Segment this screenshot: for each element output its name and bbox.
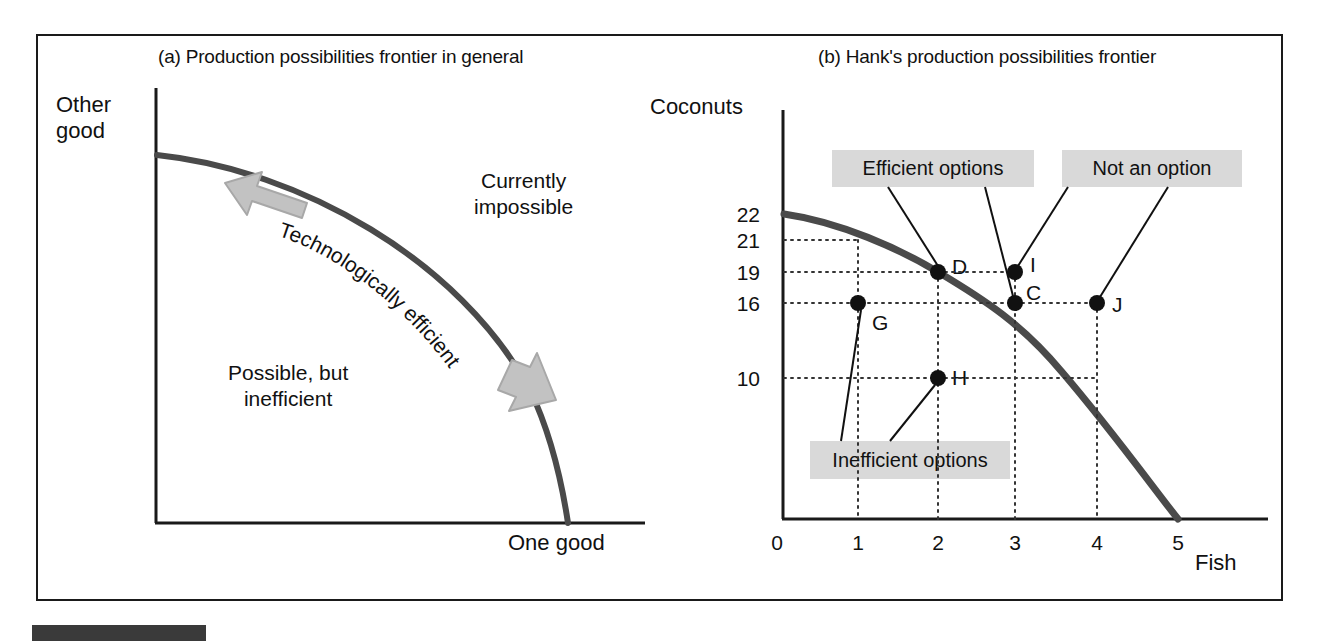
panel-a-y-axis-label-line2: good: [56, 118, 111, 144]
y-tick-label-19: 19: [722, 261, 760, 285]
point-label-H: H: [952, 366, 967, 390]
impossible-line2: impossible: [474, 194, 573, 220]
y-tick-label-10: 10: [722, 367, 760, 391]
panel-b-y-axis-label: Coconuts: [650, 94, 743, 120]
impossible-line1: Currently: [474, 168, 573, 194]
panel-a-x-axis-label: One good: [508, 530, 605, 556]
x-tick-label-4: 4: [1085, 531, 1109, 555]
panel-a-impossible-region-label: Currently impossible: [474, 168, 573, 220]
panel-a-y-axis-label: Other good: [56, 92, 111, 144]
callout-inefficient-options: Inefficient options: [810, 441, 1010, 479]
x-tick-label-1: 1: [846, 531, 870, 555]
panel-a-inefficient-region-label: Possible, but inefficient: [228, 360, 348, 412]
panel-a-title: (a) Production possibilities frontier in…: [158, 46, 523, 68]
point-label-J: J: [1112, 293, 1123, 317]
panel-b-title: (b) Hank's production possibilities fron…: [818, 46, 1156, 68]
x-tick-label-2: 2: [926, 531, 950, 555]
point-label-I: I: [1030, 253, 1036, 277]
panel-b-x-axis-label: Fish: [1195, 550, 1237, 576]
callout-not-an-option: Not an option: [1062, 150, 1242, 187]
point-label-G: G: [872, 311, 888, 335]
x-tick-label-5: 5: [1166, 531, 1190, 555]
callout-efficient-options: Efficient options: [832, 150, 1034, 187]
y-tick-label-22: 22: [722, 203, 760, 227]
point-label-C: C: [1026, 281, 1041, 305]
inefficient-line1: Possible, but: [228, 360, 348, 386]
y-tick-label-21: 21: [722, 229, 760, 253]
point-label-D: D: [952, 255, 967, 279]
inefficient-line2: inefficient: [228, 386, 348, 412]
x-tick-label-3: 3: [1003, 531, 1027, 555]
panel-a-y-axis-label-line1: Other: [56, 92, 111, 118]
caption-bar: [32, 625, 206, 641]
x-tick-label-0: 0: [765, 531, 789, 555]
y-tick-label-16: 16: [722, 292, 760, 316]
